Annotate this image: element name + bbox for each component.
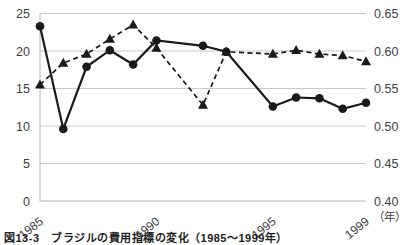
right-axis-tick-label: 0.60 <box>374 45 398 59</box>
left-axis-tick-label: 20 <box>16 45 30 59</box>
left-axis-tick-label: 15 <box>16 82 30 96</box>
circle-marker <box>292 93 301 102</box>
triangle-marker <box>361 56 371 65</box>
triangle-marker <box>105 34 115 43</box>
circle-marker <box>129 60 138 69</box>
right-axis-tick-label: 0.55 <box>374 82 398 96</box>
triangle-marker <box>338 50 348 59</box>
triangle-marker <box>128 20 138 29</box>
circle-marker <box>315 94 324 103</box>
circle-marker <box>82 62 91 71</box>
circle-marker <box>338 104 347 113</box>
right-axis-tick-label: 0.50 <box>374 120 398 134</box>
x-axis-unit-label: （年） <box>373 210 406 223</box>
circle-marker <box>199 41 208 50</box>
triangle-marker <box>35 80 45 89</box>
circle-marker <box>59 125 68 134</box>
left-axis-tick-label: 5 <box>23 157 30 171</box>
triangle-marker <box>82 49 92 58</box>
circle-marker <box>362 98 371 107</box>
circle-marker <box>106 46 115 55</box>
x-axis-tick-label: 1999 <box>342 214 372 240</box>
circle-marker <box>269 102 278 111</box>
circle-marker <box>36 22 45 31</box>
right-axis-tick-label: 0.65 <box>374 7 398 21</box>
circle-marker <box>222 47 231 56</box>
left-axis-tick-label: 0 <box>23 195 30 209</box>
left-axis-tick-label: 25 <box>16 7 30 21</box>
left-axis-tick-label: 10 <box>16 120 30 134</box>
circle-marker <box>152 36 161 45</box>
triangle-marker <box>291 45 301 54</box>
figure-caption: 図13-3 ブラジルの費用指標の変化（1985～1999年） <box>4 229 288 245</box>
right-axis-tick-label: 0.40 <box>374 195 398 209</box>
right-axis-tick-label: 0.45 <box>374 157 398 171</box>
